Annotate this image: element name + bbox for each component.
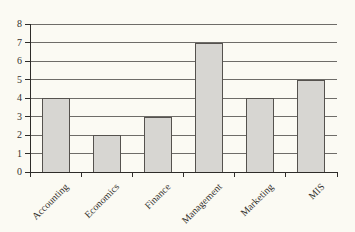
x-axis-tick bbox=[81, 172, 82, 177]
y-axis-tick-label: 3 bbox=[17, 112, 22, 122]
gridline bbox=[30, 153, 337, 154]
x-axis-tick bbox=[132, 172, 133, 177]
x-axis-label: Finance bbox=[143, 181, 173, 211]
x-axis-line bbox=[30, 172, 337, 173]
gridline bbox=[30, 79, 337, 80]
gridline bbox=[30, 42, 337, 43]
bar-finance bbox=[144, 117, 172, 174]
x-axis-label: Economics bbox=[82, 181, 121, 220]
y-axis-tick-label: 5 bbox=[17, 75, 22, 85]
bar-chart: 012345678AccountingEconomicsFinanceManag… bbox=[0, 0, 355, 232]
bar-mis bbox=[297, 80, 325, 174]
x-axis-label: Accounting bbox=[30, 181, 71, 222]
bar-economics bbox=[93, 135, 121, 173]
x-axis-tick bbox=[285, 172, 286, 177]
y-axis-tick-label: 2 bbox=[17, 130, 22, 140]
x-axis-label: Management bbox=[179, 181, 224, 226]
x-axis-tick bbox=[183, 172, 184, 177]
gridline bbox=[30, 24, 337, 25]
y-axis-tick-label: 7 bbox=[17, 38, 22, 48]
gridline bbox=[30, 98, 337, 99]
y-axis-tick-label: 8 bbox=[17, 19, 22, 29]
gridline bbox=[30, 61, 337, 62]
bar-management bbox=[195, 43, 223, 174]
bar-accounting bbox=[42, 98, 70, 173]
x-axis-label: Marketing bbox=[238, 181, 275, 218]
gridline bbox=[30, 135, 337, 136]
x-axis-tick bbox=[30, 172, 31, 177]
x-axis-tick bbox=[234, 172, 235, 177]
bar-marketing bbox=[246, 98, 274, 173]
y-axis-line bbox=[30, 24, 31, 172]
y-axis-tick-label: 1 bbox=[17, 149, 22, 159]
scanned-page: 012345678AccountingEconomicsFinanceManag… bbox=[0, 0, 355, 232]
y-axis-tick-label: 4 bbox=[17, 93, 22, 103]
gridline bbox=[30, 116, 337, 117]
x-axis-tick bbox=[337, 172, 338, 177]
y-axis-tick-label: 6 bbox=[17, 56, 22, 66]
y-axis-tick-label: 0 bbox=[17, 167, 22, 177]
x-axis-label: MIS bbox=[306, 181, 326, 201]
